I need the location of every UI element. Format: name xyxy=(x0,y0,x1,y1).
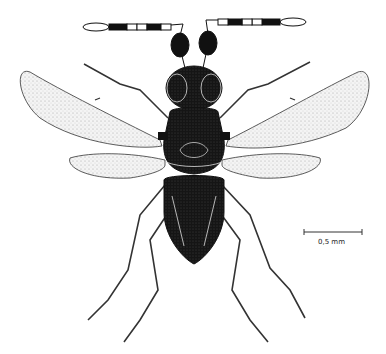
scale-bar-label: 0,5 mm xyxy=(318,238,345,246)
antenna-right xyxy=(199,18,306,68)
scale-bar xyxy=(304,229,362,235)
antenna-left xyxy=(83,23,189,68)
midleg-right xyxy=(222,185,305,318)
hindwing-right xyxy=(222,154,320,178)
forewing-right xyxy=(226,71,369,148)
midleg-left xyxy=(88,185,165,320)
hindwing-left xyxy=(70,154,165,178)
gaster xyxy=(164,176,224,265)
hindleg-left xyxy=(124,210,170,342)
head xyxy=(166,66,222,110)
forewing-left xyxy=(20,71,162,147)
hindleg-right xyxy=(218,210,268,342)
wasp-illustration xyxy=(0,0,386,354)
